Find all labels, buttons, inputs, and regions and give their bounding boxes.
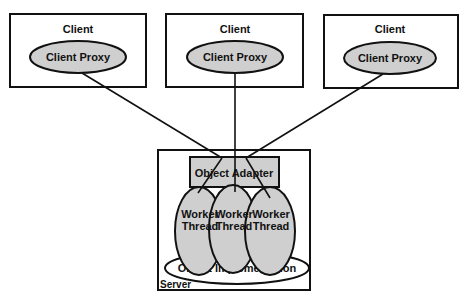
client-left: Client Client Proxy bbox=[10, 14, 146, 87]
worker-thread-label: Worker bbox=[215, 208, 253, 220]
client-proxy-label: Client Proxy bbox=[358, 52, 423, 64]
client-right: Client Client Proxy bbox=[324, 15, 458, 88]
worker-thread-label: Thread bbox=[182, 220, 219, 232]
worker-thread-label: Worker bbox=[252, 208, 290, 220]
client-title: Client bbox=[375, 23, 406, 35]
worker-thread-label: Thread bbox=[216, 220, 253, 232]
client-proxy-label: Client Proxy bbox=[203, 51, 268, 63]
server: Object Adapter Object Implementation Wor… bbox=[158, 150, 310, 290]
worker-thread-label: Worker bbox=[181, 208, 219, 220]
client-title: Client bbox=[63, 23, 94, 35]
worker-thread-label: Thread bbox=[253, 220, 290, 232]
server-label: Server bbox=[160, 279, 191, 290]
client-proxy-label: Client Proxy bbox=[46, 51, 111, 63]
client-server-diagram: Client Client Proxy Client Client Proxy … bbox=[0, 0, 466, 300]
client-title: Client bbox=[220, 23, 251, 35]
